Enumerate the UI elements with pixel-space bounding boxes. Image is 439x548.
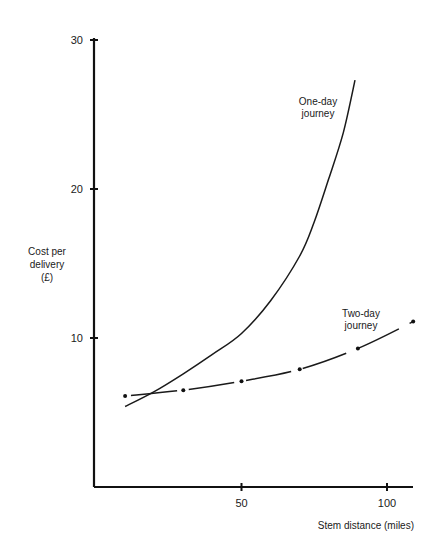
two-day-journey-point <box>181 388 185 392</box>
one-day-label-line-1: One-day <box>299 96 337 107</box>
y-axis-title-line-2: delivery <box>30 259 64 270</box>
y-tick-label: 10 <box>71 332 83 344</box>
y-axis-title-line-1: Cost per <box>28 246 66 257</box>
one-day-journey-line <box>125 80 355 406</box>
one-day-label-line-2: journey <box>301 108 335 119</box>
two-day-journey-point <box>411 320 415 324</box>
plot-area <box>123 80 415 406</box>
two-day-journey-point <box>240 379 244 383</box>
x-tick-label: 50 <box>235 497 247 509</box>
cost-per-delivery-chart: 102030 50100 Cost per delivery (£) Stem … <box>0 0 439 548</box>
x-axis-title: Stem distance (miles) <box>318 520 414 531</box>
two-day-journey-point <box>356 346 360 350</box>
y-tick-label: 30 <box>71 34 83 46</box>
two-day-journey-line <box>125 322 413 397</box>
y-axis-title-line-3: (£) <box>41 272 53 283</box>
x-tick-label: 100 <box>378 497 396 509</box>
two-day-label-line-2: journey <box>344 320 378 331</box>
two-day-journey-point <box>123 394 127 398</box>
two-day-journey-point <box>298 367 302 371</box>
two-day-label-line-1: Two-day <box>342 308 380 319</box>
y-tick-label: 20 <box>71 183 83 195</box>
